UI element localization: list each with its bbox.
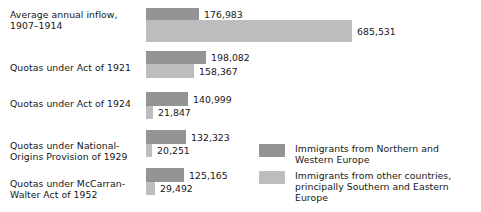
bar-value-label: 685,531 [357, 27, 396, 36]
bar-series-0-category-2 [146, 92, 188, 106]
bar-value-label: 29,492 [160, 184, 193, 193]
bar-series-0-category-3 [146, 130, 186, 144]
legend-swatch-icon [259, 144, 285, 157]
legend-swatch-icon [259, 171, 285, 184]
bar-series-1-category-0 [146, 20, 352, 42]
bar-series-1-category-3 [146, 144, 152, 157]
bar-value-label: 140,999 [193, 95, 232, 104]
bar-value-label: 132,323 [191, 133, 230, 142]
bar-value-label: 21,847 [158, 108, 191, 117]
bar-value-label: 176,983 [204, 10, 243, 19]
category-label: Quotas under National- Origins Provision… [10, 140, 142, 163]
bar-series-1-category-1 [146, 64, 194, 78]
category-label: Average annual inflow, 1907–1914 [10, 9, 142, 32]
legend-item-0: Immigrants from Northern and Western Eur… [259, 143, 439, 165]
bar-value-label: 20,251 [157, 146, 190, 155]
bar-value-label: 125,165 [189, 171, 228, 180]
bar-value-label: 198,082 [211, 53, 250, 62]
legend-label: Immigrants from Northern and Western Eur… [295, 143, 439, 165]
category-label: Quotas under Act of 1924 [10, 98, 142, 109]
category-label: Quotas under Act of 1921 [10, 62, 142, 73]
bar-series-0-category-0 [146, 8, 199, 20]
bar-series-0-category-1 [146, 51, 206, 64]
bar-series-1-category-2 [146, 106, 153, 119]
category-label: Quotas under McCarran- Walter Act of 195… [10, 178, 142, 201]
bar-series-1-category-4 [146, 182, 155, 195]
legend-label: Immigrants from other countries, princip… [295, 170, 474, 204]
legend-item-1: Immigrants from other countries, princip… [259, 170, 474, 204]
bar-value-label: 158,367 [199, 67, 238, 76]
immigration-quotas-bar-chart: Average annual inflow, 1907–1914176,9836… [0, 0, 481, 212]
bar-series-0-category-4 [146, 168, 184, 182]
